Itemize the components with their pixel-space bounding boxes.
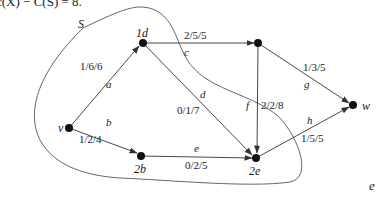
edge-a-name: a (106, 79, 112, 90)
header-equation: c(X) − C(S) = 8. (0, 0, 82, 10)
edge-d (143, 43, 252, 155)
edge-d-flow: 0/1/7 (177, 105, 200, 116)
edge-g (258, 43, 349, 103)
edge-g-flow: 1/3/5 (303, 62, 326, 73)
edge-e-flow: 0/2/5 (185, 160, 208, 171)
edge-b-name: b (106, 117, 112, 128)
node-label-2b: 2b (134, 163, 146, 175)
edge-g-name: g (304, 79, 310, 90)
node-label-2e: 2e (249, 165, 260, 177)
node-label-w: w (362, 100, 370, 112)
node-top-right (254, 39, 262, 47)
edge-d-name: d (200, 89, 206, 100)
edge-f-name: f (246, 100, 249, 111)
set-label-s: S (78, 18, 84, 30)
node-v (65, 124, 73, 132)
edge-a-flow: 1/6/6 (80, 61, 103, 72)
node-label-v: v (58, 122, 63, 134)
node-w (349, 101, 357, 109)
edge-e-name: e (194, 143, 199, 154)
node-b (137, 152, 145, 160)
node-label-1d: 1d (136, 27, 148, 39)
node-d (139, 39, 147, 47)
edge-c-flow: 2/5/5 (184, 30, 207, 41)
edge-e (141, 156, 252, 158)
edge-b-flow: 1/2/4 (79, 134, 102, 145)
cropped-text-fragment: e (369, 178, 375, 194)
edge-c-name: c (184, 47, 189, 58)
edge-f (257, 43, 258, 153)
edge-a (69, 46, 139, 128)
node-e (252, 154, 260, 162)
edge-h-name: h (307, 115, 313, 126)
set-s-boundary (34, 7, 301, 184)
edge-f-flow: 2/2/8 (261, 100, 284, 111)
edge-h-flow: 1/5/5 (301, 133, 324, 144)
